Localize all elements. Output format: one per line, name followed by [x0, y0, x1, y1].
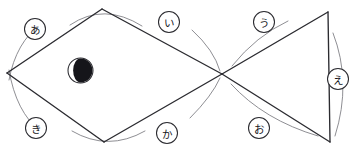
label-ki-text: き — [31, 123, 41, 135]
edge-bottomright-to-center — [222, 74, 330, 142]
label-a-text: あ — [30, 24, 40, 36]
label-ka-text: か — [162, 128, 173, 140]
label-i: い — [159, 12, 180, 33]
label-u-text: う — [259, 17, 269, 29]
moon-marker — [68, 58, 93, 83]
label-o-text: お — [254, 123, 264, 135]
edge-bottomleft-to-left — [7, 73, 104, 142]
label-ka: か — [157, 123, 178, 144]
label-u: う — [254, 12, 275, 33]
figure-canvas: あいうえきかお — [0, 0, 358, 159]
label-a: あ — [25, 19, 46, 40]
label-ki: き — [26, 118, 47, 139]
label-o: お — [249, 118, 270, 139]
label-e-text: え — [333, 74, 343, 86]
geometry-diagram: あいうえきかお — [0, 0, 358, 159]
label-i-text: い — [164, 17, 174, 29]
arc-o — [231, 84, 318, 136]
marker-group — [68, 58, 93, 83]
label-e: え — [328, 69, 349, 90]
